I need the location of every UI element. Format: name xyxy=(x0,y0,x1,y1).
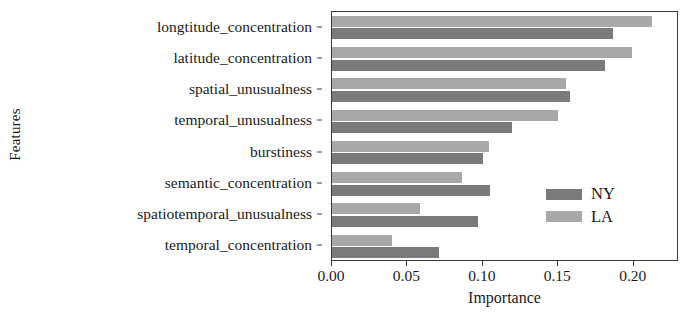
legend-swatch-la xyxy=(546,211,582,222)
legend-swatch-ny xyxy=(546,189,582,200)
bar-la-temporal_concentration xyxy=(332,235,392,246)
y-tick-mark xyxy=(317,182,322,183)
bar-ny-spatiotemporal_unusualness xyxy=(332,216,478,227)
legend-label-ny: NY xyxy=(591,186,615,203)
x-tick-mark xyxy=(406,261,407,266)
y-axis-title: Features xyxy=(2,0,28,268)
x-tick-label-0.15: 0.15 xyxy=(544,267,571,285)
x-tick-mark xyxy=(331,261,332,266)
y-tick-label-longtitude_concentration: longtitude_concentration xyxy=(157,19,312,35)
y-tick-label-latitude_concentration: latitude_concentration xyxy=(173,50,312,66)
y-tick-mark xyxy=(317,26,322,27)
bar-ny-burstiness xyxy=(332,153,483,164)
legend-label-la: LA xyxy=(591,209,613,226)
x-tick-mark xyxy=(633,261,634,266)
y-axis-title-text: Features xyxy=(7,108,24,160)
y-tick-mark xyxy=(317,245,322,246)
x-axis-ticks: 0.000.050.100.150.20 xyxy=(331,261,678,287)
bar-ny-temporal_concentration xyxy=(332,247,439,258)
legend: NYLA xyxy=(546,186,615,225)
y-tick-label-semantic_concentration: semantic_concentration xyxy=(165,175,312,191)
y-tick-label-spatial_unusualness: spatial_unusualness xyxy=(189,81,312,97)
y-tick-mark xyxy=(317,57,322,58)
y-tick-mark xyxy=(317,120,322,121)
y-tick-label-temporal_unusualness: temporal_unusualness xyxy=(174,113,312,129)
plot-area xyxy=(331,11,678,261)
importance-bar-chart: Features longtitude_concentrationlatitud… xyxy=(0,0,686,325)
bar-ny-temporal_unusualness xyxy=(332,122,512,133)
bar-la-burstiness xyxy=(332,141,489,152)
bar-la-spatiotemporal_unusualness xyxy=(332,203,420,214)
x-tick-label-0.00: 0.00 xyxy=(317,267,344,285)
bar-la-latitude_concentration xyxy=(332,47,632,58)
bar-ny-latitude_concentration xyxy=(332,60,605,71)
bar-la-longtitude_concentration xyxy=(332,16,652,27)
legend-item-la[interactable]: LA xyxy=(546,209,615,226)
bar-la-semantic_concentration xyxy=(332,172,462,183)
y-tick-label-burstiness: burstiness xyxy=(250,144,312,160)
bar-la-spatial_unusualness xyxy=(332,78,566,89)
y-tick-mark xyxy=(317,214,322,215)
y-tick-mark xyxy=(317,89,322,90)
x-tick-mark xyxy=(482,261,483,266)
bar-ny-longtitude_concentration xyxy=(332,28,613,39)
y-tick-label-temporal_concentration: temporal_concentration xyxy=(165,238,312,254)
x-tick-label-0.10: 0.10 xyxy=(468,267,495,285)
bar-ny-spatial_unusualness xyxy=(332,91,570,102)
x-tick-label-0.05: 0.05 xyxy=(393,267,420,285)
bar-la-temporal_unusualness xyxy=(332,110,558,121)
bar-ny-semantic_concentration xyxy=(332,185,490,196)
y-tick-label-spatiotemporal_unusualness: spatiotemporal_unusualness xyxy=(137,206,312,222)
x-tick-mark xyxy=(557,261,558,266)
x-tick-label-0.20: 0.20 xyxy=(619,267,646,285)
legend-item-ny[interactable]: NY xyxy=(546,186,615,203)
y-axis-tick-labels: longtitude_concentrationlatitude_concent… xyxy=(26,11,322,261)
y-tick-mark xyxy=(317,151,322,152)
x-axis-title: Importance xyxy=(331,289,678,307)
